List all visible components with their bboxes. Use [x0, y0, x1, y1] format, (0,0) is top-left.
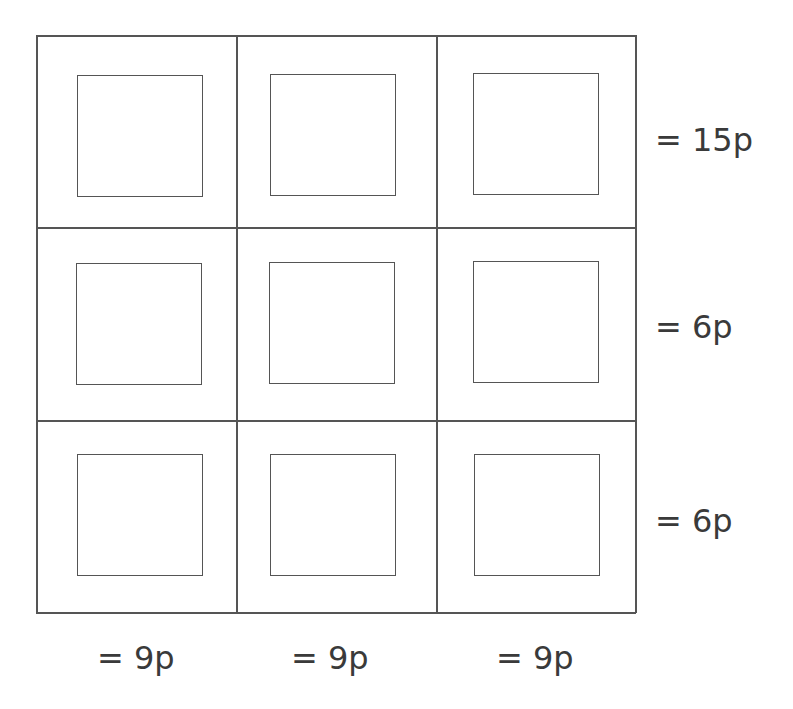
row-total-2: = 6p: [655, 311, 733, 343]
grid-divider-horizontal-1: [36, 227, 636, 229]
answer-box-r3-c3[interactable]: [474, 454, 600, 576]
row-total-1: = 15p: [655, 124, 753, 156]
grid-border-right: [635, 35, 637, 613]
grid-divider-horizontal-2: [36, 420, 636, 422]
answer-box-r3-c1[interactable]: [77, 454, 203, 576]
grid-divider-vertical-1: [236, 35, 238, 613]
answer-box-r1-c2[interactable]: [270, 74, 396, 196]
col-total-3: = 9p: [496, 642, 574, 674]
grid-border-left: [36, 35, 38, 613]
grid-divider-vertical-2: [436, 35, 438, 613]
answer-box-r3-c2[interactable]: [270, 454, 396, 576]
col-total-1: = 9p: [97, 642, 175, 674]
answer-box-r1-c1[interactable]: [77, 75, 203, 197]
answer-box-r1-c3[interactable]: [473, 73, 599, 195]
answer-box-r2-c1[interactable]: [76, 263, 202, 385]
row-total-3: = 6p: [655, 505, 733, 537]
answer-box-r2-c2[interactable]: [269, 262, 395, 384]
grid-border-top: [36, 35, 636, 37]
coin-grid: [36, 35, 636, 613]
answer-box-r2-c3[interactable]: [473, 261, 599, 383]
col-total-2: = 9p: [291, 642, 369, 674]
grid-border-bottom: [36, 612, 636, 614]
